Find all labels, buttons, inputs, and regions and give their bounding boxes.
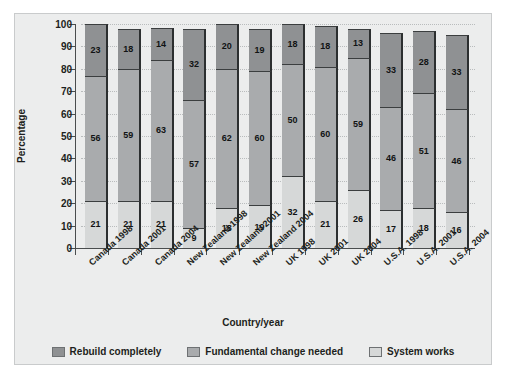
y-axis-tick-label: 0 (66, 243, 72, 254)
table-row: 216018 (315, 24, 338, 248)
y-axis-tick-label: 80 (61, 63, 72, 74)
bar-segment: 56 (85, 76, 108, 201)
y-axis-tick-label: 100 (55, 19, 72, 30)
bar-value-label: 28 (419, 58, 429, 67)
x-axis-title: Country/year (15, 317, 491, 328)
bar-value-label: 19 (255, 46, 265, 55)
table-row: 215623 (85, 24, 108, 248)
bar-value-label: 46 (386, 154, 396, 163)
y-axis-tick-label: 40 (61, 153, 72, 164)
y-axis-tick-label: 30 (61, 175, 72, 186)
bar-value-label: 18 (320, 42, 330, 51)
y-axis-tick-label: 70 (61, 86, 72, 97)
table-row: 216314 (151, 24, 174, 248)
bar-segment: 46 (380, 107, 403, 210)
table-row: 164633 (446, 24, 469, 248)
bar-segment: 50 (282, 64, 305, 176)
bar-value-label: 46 (452, 157, 462, 166)
bar-segment: 21 (315, 201, 338, 248)
table-row: 185128 (413, 24, 436, 248)
table-row: 265913 (348, 24, 371, 248)
bar-value-label: 32 (287, 208, 297, 217)
bar-segment: 59 (348, 58, 371, 190)
chart-frame: 0102030405060708090100 21562321591821631… (14, 13, 492, 365)
bar-segment: 60 (315, 67, 338, 201)
y-axis-tick-label: 20 (61, 198, 72, 209)
y-axis-tick-label: 90 (61, 41, 72, 52)
y-axis-tick-label: 60 (61, 108, 72, 119)
bar-value-label: 20 (222, 42, 232, 51)
bar-segment: 26 (348, 190, 371, 248)
y-axis-line (75, 24, 76, 248)
legend-label: Fundamental change needed (205, 346, 343, 357)
bar-value-label: 60 (255, 134, 265, 143)
legend-item[interactable]: Fundamental change needed (187, 346, 343, 357)
bar-value-label: 33 (386, 66, 396, 75)
bar-value-label: 21 (320, 220, 330, 229)
bar-segment: 63 (151, 60, 174, 201)
legend-label: System works (387, 346, 454, 357)
bar-value-label: 33 (452, 68, 462, 77)
bar-value-label: 14 (156, 40, 166, 49)
legend-swatch (187, 347, 200, 357)
bar-value-label: 32 (189, 60, 199, 69)
bar-segment: 62 (216, 69, 239, 208)
bar-segment: 14 (151, 28, 174, 59)
table-row: 174633 (380, 24, 403, 248)
bar-value-label: 50 (287, 116, 297, 125)
bar-segment: 33 (446, 35, 469, 109)
bar-segment: 21 (85, 201, 108, 248)
bar-value-label: 51 (419, 147, 429, 156)
table-row: 95732 (183, 24, 206, 248)
bar-value-label: 57 (189, 160, 199, 169)
bar-value-label: 63 (156, 126, 166, 135)
bar-value-label: 18 (287, 40, 297, 49)
legend-swatch (369, 347, 382, 357)
chart-legend: Rebuild completelyFundamental change nee… (15, 346, 491, 357)
legend-item[interactable]: System works (369, 346, 454, 357)
bar-value-label: 60 (320, 130, 330, 139)
bar-value-label: 21 (90, 220, 100, 229)
bar-segment: 18 (118, 29, 141, 69)
bar-segment: 18 (282, 24, 305, 64)
plot-area: 0102030405060708090100 21562321591821631… (81, 24, 475, 248)
bar-segment: 28 (413, 31, 436, 94)
legend-item[interactable]: Rebuild completely (52, 346, 162, 357)
bar-segment: 33 (380, 33, 403, 107)
bar-value-label: 26 (353, 215, 363, 224)
bar-value-label: 17 (386, 225, 396, 234)
y-axis-title: Percentage (16, 109, 27, 163)
y-axis-tick-label: 50 (61, 131, 72, 142)
bar-segment: 46 (446, 109, 469, 212)
bar-value-label: 56 (90, 134, 100, 143)
bar-segment: 13 (348, 29, 371, 58)
legend-swatch (52, 347, 65, 357)
bar-value-label: 13 (353, 39, 363, 48)
bar-segment: 18 (315, 26, 338, 66)
legend-label: Rebuild completely (70, 346, 162, 357)
bar-value-label: 18 (123, 45, 133, 54)
bar-value-label: 59 (123, 131, 133, 140)
bar-value-label: 62 (222, 134, 232, 143)
bar-value-label: 59 (353, 120, 363, 129)
bar-segment: 32 (183, 29, 206, 101)
bar-segment: 59 (118, 69, 141, 201)
table-row: 215918 (118, 24, 141, 248)
bar-segment: 60 (249, 71, 272, 205)
y-axis-tick-label: 10 (61, 220, 72, 231)
bar-segment: 23 (85, 24, 108, 76)
bar-segment: 19 (249, 29, 272, 72)
bar-segment: 20 (216, 24, 239, 69)
bar-segment: 51 (413, 93, 436, 207)
bar-segment: 57 (183, 100, 206, 228)
bar-value-label: 23 (90, 46, 100, 55)
x-axis-tick (75, 248, 76, 255)
